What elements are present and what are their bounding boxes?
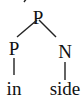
edge-root-left: [17, 20, 37, 37]
leaf-in: in: [7, 78, 22, 99]
leaf-side: side: [50, 78, 81, 99]
edge-from-parent: [24, 0, 27, 2]
syntax-tree: P P N in side: [0, 0, 84, 105]
root-node: P: [33, 7, 44, 28]
right-node: N: [58, 41, 72, 62]
left-node: P: [9, 38, 20, 59]
edge-root-right: [39, 20, 56, 37]
